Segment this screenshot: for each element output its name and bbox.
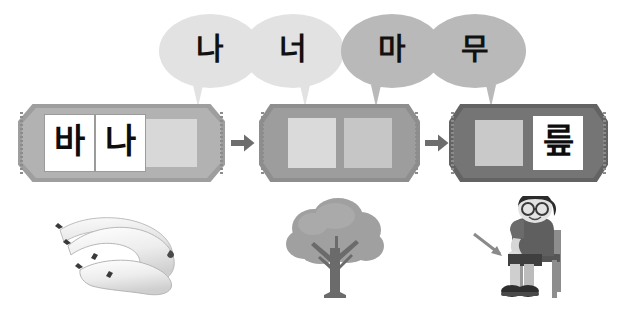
ticket-card-3-slot-2[interactable]: 릎 [533, 116, 583, 170]
ticket-card-1-slot-2[interactable]: 나 [95, 114, 146, 172]
ticket-card-1[interactable]: 바 나 [18, 104, 225, 182]
banana-illustration [48, 198, 188, 298]
tree-illustration [280, 196, 390, 302]
ticket-card-3-right-perforation [603, 112, 606, 174]
ticket-card-3-slot-2-syllable: 릎 [543, 124, 574, 158]
boy-illustration [466, 196, 584, 306]
ticket-card-1-left-perforation [20, 112, 23, 174]
speech-bubble-2[interactable]: 너 [242, 14, 344, 88]
ticket-card-2[interactable] [259, 104, 420, 182]
ticket-card-3-slot-1[interactable] [475, 120, 523, 166]
ticket-card-3-slots: 릎 [475, 116, 583, 170]
ticket-card-2-slot-1[interactable] [288, 118, 336, 168]
speech-bubble-1-syllable: 나 [196, 34, 224, 64]
speech-bubble-4[interactable]: 무 [424, 14, 526, 88]
speech-bubble-2-syllable: 너 [279, 34, 307, 64]
speech-bubble-4-syllable: 무 [461, 34, 489, 64]
ticket-card-1-slot-1[interactable]: 바 [44, 114, 95, 172]
ticket-card-3[interactable]: 릎 [449, 104, 608, 182]
speech-bubble-3-syllable: 마 [378, 34, 406, 64]
ticket-card-1-slots: 바 나 [44, 113, 199, 173]
knee-pointer-arrow [474, 234, 502, 256]
ticket-card-3-left-perforation [451, 112, 454, 174]
ticket-card-1-right-perforation [220, 112, 223, 174]
worksheet-canvas: 나 너 마 무 바 나 [0, 0, 623, 313]
ticket-card-2-left-perforation [261, 112, 264, 174]
ticket-card-1-slot-2-syllable: 나 [105, 124, 136, 158]
arrow-2 [424, 131, 450, 155]
ticket-card-1-slot-3[interactable] [146, 119, 197, 167]
arrow-1 [230, 131, 256, 155]
ticket-card-2-right-perforation [415, 112, 418, 174]
ticket-card-1-slot-1-syllable: 바 [54, 124, 85, 158]
ticket-card-2-slots [288, 118, 392, 168]
ticket-card-2-slot-2[interactable] [344, 118, 392, 168]
